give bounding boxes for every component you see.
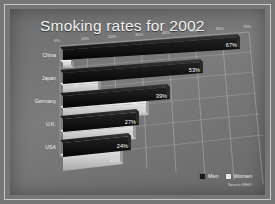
x-tick-7: 70% — [243, 24, 252, 29]
chart-svg: 0% 10% 20% 30% 40% 50% 60% 70% China Jap… — [10, 9, 265, 195]
chart-legend: Men Women — [200, 173, 252, 179]
y-axis-category-labels: China Japan Germany U.K. USA — [35, 52, 57, 150]
x-tick-2: 20% — [108, 34, 117, 39]
x-tick-6: 60% — [216, 26, 225, 31]
category-label-china: China — [42, 52, 56, 58]
x-tick-1: 10% — [81, 36, 90, 41]
value-label-germany-men: 39% — [156, 93, 167, 99]
legend-label-men: Men — [208, 173, 219, 179]
x-tick-0: 0% — [54, 38, 60, 43]
legend-label-women: Women — [234, 173, 252, 179]
category-label-uk: U.K. — [46, 121, 56, 127]
legend-item-men[interactable]: Men — [200, 173, 219, 179]
value-label-usa-men: 24% — [117, 143, 128, 149]
value-label-uk-men: 27% — [125, 119, 136, 125]
category-label-germany: Germany — [35, 98, 57, 104]
legend-item-women[interactable]: Women — [226, 173, 252, 179]
source-note: Source:WHO — [228, 182, 252, 187]
value-label-china-men: 67% — [226, 42, 237, 48]
value-label-japan-men: 53% — [189, 67, 200, 73]
legend-swatch-women — [226, 174, 231, 179]
bar-japan-men[interactable] — [60, 59, 203, 84]
category-label-japan: Japan — [42, 75, 56, 81]
x-tick-3: 30% — [135, 32, 144, 37]
chart-canvas: Smoking rates for 2002 — [10, 9, 265, 195]
x-tick-5: 50% — [189, 28, 198, 33]
bar-china-women[interactable] — [60, 60, 74, 68]
legend-swatch-men — [200, 174, 205, 179]
x-tick-4: 40% — [162, 30, 171, 35]
plot-area: 0% 10% 20% 30% 40% 50% 60% 70% China Jap… — [10, 9, 265, 195]
slide: Smoking rates for 2002 — [0, 0, 275, 204]
value-label-usa-women: 21% — [110, 157, 121, 163]
category-label-usa: USA — [45, 144, 56, 150]
